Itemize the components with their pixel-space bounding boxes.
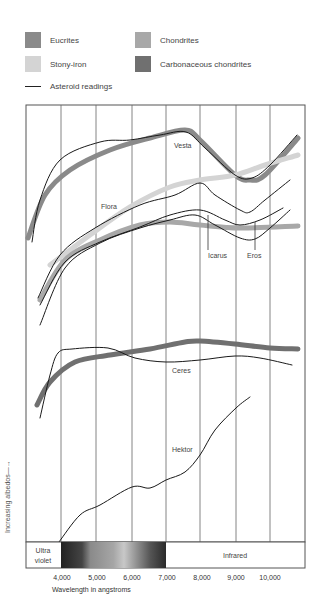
reading-flora	[38, 180, 290, 298]
series-label-hektor: Hektor	[172, 446, 193, 453]
vertical-gridlines	[61, 105, 270, 542]
x-tick: 9,000	[227, 574, 245, 581]
band-carbonaceous	[37, 341, 298, 405]
x-tick: 5,000	[88, 574, 106, 581]
x-tick: 4,000	[53, 574, 71, 581]
series-layer	[28, 130, 298, 542]
x-axis-title: Wavelength in angstroms	[52, 586, 131, 593]
x-tick: 7,000	[158, 574, 176, 581]
chart-plot: VestaFloraIcarusErosCeresHektor Ultra vi…	[0, 0, 315, 608]
reading-hektor	[59, 397, 250, 542]
series-label-vesta: Vesta	[174, 142, 192, 149]
ultraviolet-label-line1: Ultra	[36, 547, 51, 554]
y-axis-title: Increasing albedos—→	[4, 460, 11, 533]
series-label-eros: Eros	[247, 252, 262, 259]
series-label-flora: Flora	[101, 203, 117, 210]
band-chondrites	[40, 222, 298, 300]
band-stony-iron	[50, 155, 298, 265]
x-tick: 10,000	[259, 574, 281, 581]
x-tick: 6,000	[123, 574, 141, 581]
visible-spectrum	[61, 542, 166, 568]
y-axis-label: Increasing albedos	[4, 474, 11, 533]
x-tick: 8,000	[193, 574, 211, 581]
series-label-ceres: Ceres	[172, 367, 191, 374]
ultraviolet-label-line2: violet	[35, 557, 51, 564]
infrared-label: Infrared	[223, 552, 247, 559]
arrow-right-icon: —→	[4, 460, 11, 474]
series-label-icarus: Icarus	[208, 252, 228, 259]
